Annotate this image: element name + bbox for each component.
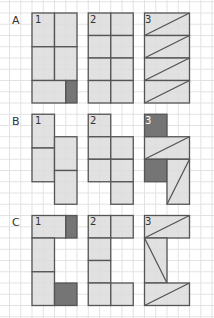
- panel-a1-number: 1: [35, 14, 41, 25]
- panel-c1-number: 1: [35, 216, 41, 227]
- grid-figure: [0, 0, 214, 318]
- row-label-a: A: [12, 14, 20, 27]
- panel-c2-number: 2: [90, 216, 96, 227]
- panel-b1-number: 1: [35, 115, 41, 126]
- panel-c3-number: 3: [145, 216, 151, 227]
- panel-b3-number: 3: [145, 115, 151, 126]
- panel-a2-number: 2: [90, 14, 96, 25]
- puzzle-diagram: A B C 1 2 3 1 2 3 1 2 3: [0, 0, 214, 318]
- row-label-b: B: [12, 115, 20, 128]
- panel-a3-number: 3: [145, 14, 151, 25]
- panel-b2-number: 2: [90, 115, 96, 126]
- row-label-c: C: [12, 216, 20, 229]
